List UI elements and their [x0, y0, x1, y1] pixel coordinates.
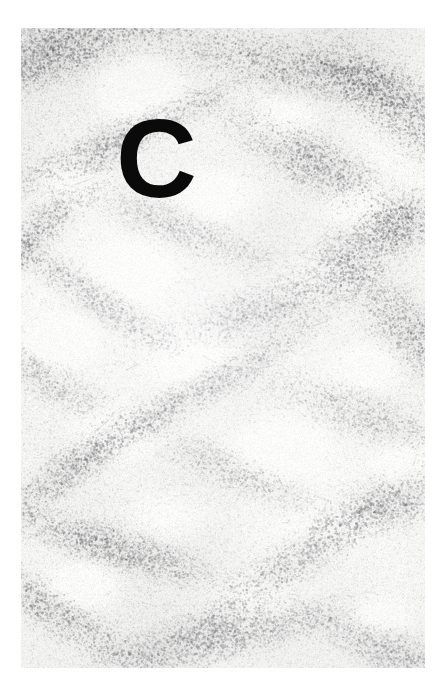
figure-root: C	[0, 0, 439, 689]
tissue-texture-canvas	[21, 28, 425, 668]
panel-label-c: C	[116, 104, 196, 214]
micrograph-image	[21, 28, 425, 668]
